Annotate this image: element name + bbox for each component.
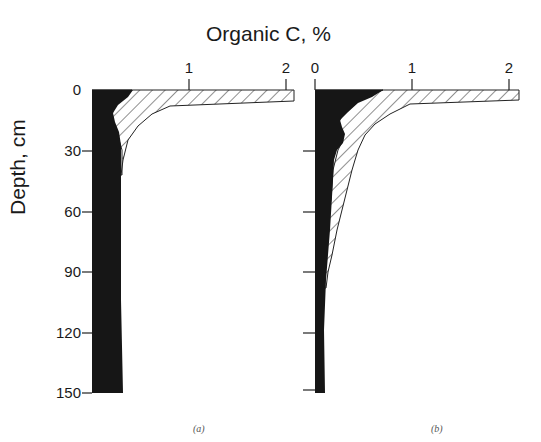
hatched-area-b [315, 90, 519, 288]
panel-a-caption: (a) [193, 423, 205, 434]
panel-a [82, 79, 294, 393]
hatched-area-a [92, 90, 294, 175]
chart-plot [0, 0, 541, 442]
panel-b-caption: (b) [431, 423, 443, 434]
panel-b [303, 79, 519, 393]
